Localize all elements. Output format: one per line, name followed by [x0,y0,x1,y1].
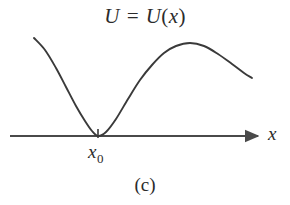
x-axis-label: x [268,124,276,143]
x0-subscript: 0 [97,151,104,166]
title-function-symbol: U [104,4,120,28]
title-close-paren: ) [178,4,185,28]
curve-equation-label: U = U(x) [0,6,290,27]
figure-caption: (c) [0,175,290,194]
title-variable: x [169,4,179,28]
title-equals-sign: = [120,4,146,28]
title-open-paren: ( [161,4,168,28]
x0-variable: x [88,141,96,162]
potential-energy-curve [34,38,252,136]
title-function-name: U [146,4,162,28]
x0-tick-label: x0 [88,142,103,165]
figure-container: U = U(x) x x0 (c) [0,0,290,205]
